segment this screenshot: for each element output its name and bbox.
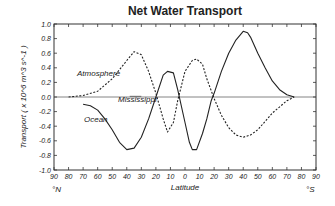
line-chart: 1.00.80.60.40.20.0-0.2-0.4-0.6-0.8-1.090…	[0, 0, 335, 206]
x-tick-label: 70	[283, 173, 291, 180]
x-tick-label: 0	[183, 173, 187, 180]
x-tick-label: 10	[196, 173, 204, 180]
y-tick-label: 0.0	[41, 94, 51, 101]
x-tick-label: 60	[268, 173, 276, 180]
x-tick-label: 50	[108, 173, 116, 180]
x-axis-label: Latitude	[171, 183, 200, 192]
y-axis-label: Transport ( x 10^6 m^3 s^-1 )	[19, 45, 28, 148]
series-ocean	[83, 31, 294, 149]
x-tick-label: 10	[167, 173, 175, 180]
y-tick-label: -0.6	[39, 137, 51, 144]
y-tick-label: 0.2	[41, 79, 51, 86]
x-tick-label: 60	[94, 173, 102, 180]
x-tick-label: 30	[137, 173, 145, 180]
y-tick-label: 1.0	[41, 21, 51, 28]
annotation-mississippi: Mississippi	[118, 95, 157, 104]
x-tick-label: 90	[312, 173, 320, 180]
x-tick-label: 80	[65, 173, 73, 180]
annotation-atmosphere: Atmosphere	[76, 69, 121, 78]
x-tick-label: 40	[123, 173, 131, 180]
north-label: °N	[52, 185, 61, 194]
x-tick-label: 90	[50, 173, 58, 180]
annotation-ocean: Ocean	[84, 115, 108, 124]
y-tick-label: 0.8	[41, 35, 51, 42]
y-tick-label: 0.6	[41, 50, 51, 57]
y-tick-label: -0.4	[39, 123, 51, 130]
x-tick-label: 20	[209, 173, 218, 180]
y-tick-label: -0.2	[39, 108, 51, 115]
south-label: °S	[306, 185, 315, 194]
y-tick-label: 0.4	[41, 64, 51, 71]
x-tick-label: 40	[239, 173, 247, 180]
x-tick-label: 70	[79, 173, 87, 180]
y-tick-label: -0.8	[39, 152, 51, 159]
series-atmosphere	[69, 52, 295, 138]
chart-container: Net Water Transport 1.00.80.60.40.20.0-0…	[0, 0, 335, 206]
x-tick-label: 30	[225, 173, 233, 180]
x-tick-label: 20	[151, 173, 160, 180]
x-tick-label: 80	[298, 173, 306, 180]
x-tick-label: 50	[254, 173, 262, 180]
